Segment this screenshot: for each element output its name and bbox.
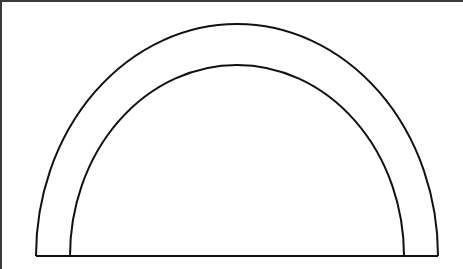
arch-diagram xyxy=(2,2,463,269)
outer-arc xyxy=(36,24,438,256)
diagram-frame xyxy=(0,0,463,269)
inner-arc xyxy=(70,65,404,256)
